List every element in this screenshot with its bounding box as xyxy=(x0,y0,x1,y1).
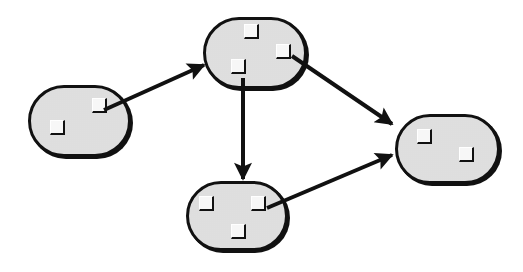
diagram-canvas xyxy=(0,0,523,272)
graph-node-d[interactable] xyxy=(186,181,288,251)
port-square-icon[interactable] xyxy=(199,196,214,211)
graph-node-a[interactable] xyxy=(28,85,131,157)
edge-arrow-b-to-c xyxy=(292,56,392,124)
port-square-icon[interactable] xyxy=(231,59,246,74)
graph-node-c[interactable] xyxy=(395,114,500,184)
port-square-icon[interactable] xyxy=(251,196,266,211)
port-square-icon[interactable] xyxy=(244,24,259,39)
port-square-icon[interactable] xyxy=(459,147,474,162)
graph-node-b[interactable] xyxy=(203,17,307,89)
port-square-icon[interactable] xyxy=(50,120,65,135)
port-square-icon[interactable] xyxy=(417,129,432,144)
port-square-icon[interactable] xyxy=(276,44,291,59)
port-square-icon[interactable] xyxy=(231,224,246,239)
port-square-icon[interactable] xyxy=(92,98,107,113)
edge-arrow-d-to-c xyxy=(267,155,392,208)
